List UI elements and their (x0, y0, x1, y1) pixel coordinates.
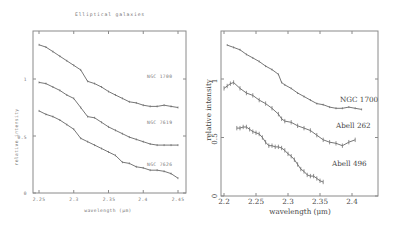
figure-canvas: Elliptical galaxies NGC 1700 NGC 7619 NG… (0, 0, 395, 225)
left-ticks (33, 31, 186, 193)
curve-abell-262 (224, 83, 355, 146)
left-xlabel: wavelength (μm) (84, 208, 132, 213)
left-ytick-0: 0 (24, 191, 27, 196)
curve-abell-496 (237, 127, 323, 182)
left-chart: Elliptical galaxies NGC 1700 NGC 7619 NG… (14, 12, 186, 213)
left-xtick-2.25: 2.25 (33, 197, 46, 202)
right-chart: NGC 1700 Abell 262 Abell 496 wavelength … (204, 31, 379, 216)
left-plot-frame (33, 31, 186, 193)
left-xtick-2.35: 2.35 (103, 197, 116, 202)
left-xtick-2.3: 2.3 (69, 197, 79, 202)
right-label-abell496: Abell 496 (331, 159, 367, 168)
right-xtick-2.4: 2.4 (346, 197, 358, 206)
left-chart-title: Elliptical galaxies (75, 12, 145, 18)
right-label-ngc1700: NGC 1700 (340, 95, 379, 104)
right-xlabel: wavelength (μm) (269, 207, 331, 216)
right-ylabel: relative intensity (204, 78, 213, 141)
left-xtick-2.4: 2.4 (138, 197, 148, 202)
right-xtick-2.3: 2.3 (282, 197, 294, 206)
right-label-abell262: Abell 262 (335, 121, 371, 130)
left-ytick-0.5: 0.5 (18, 135, 28, 140)
right-xtick-2.2: 2.2 (218, 197, 229, 206)
right-plot-frame (221, 31, 378, 196)
right-ticks (221, 31, 378, 196)
left-label-ngc7626: NGC 7626 (147, 162, 172, 167)
right-ytick-1: 1 (210, 79, 219, 84)
left-xtick-2.45: 2.45 (172, 197, 185, 202)
left-label-ngc1700: NGC 1700 (147, 74, 172, 79)
right-xtick-2.35: 2.35 (312, 197, 328, 206)
left-ytick-1: 1 (24, 77, 27, 82)
right-ytick-0.5: 0.5 (210, 133, 219, 145)
right-xtick-2.25: 2.25 (248, 197, 264, 206)
left-label-ngc7619: NGC 7619 (147, 120, 172, 125)
left-curves (39, 44, 178, 179)
